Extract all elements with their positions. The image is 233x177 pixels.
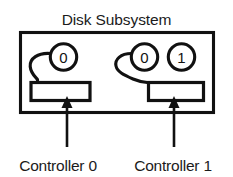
callout-label-controller-1: Controller 1 [134, 157, 212, 174]
controller-0-group: 0 [30, 44, 90, 101]
controller-1-board [149, 83, 204, 101]
controller-1-port-1-label: 1 [177, 49, 185, 66]
callout-arrow-controller-1 [169, 96, 180, 147]
controller-1-group: 0 1 [116, 44, 204, 101]
diagram-title: Disk Subsystem [62, 11, 172, 28]
disk-subsystem-diagram: Disk Subsystem 0 0 1 [0, 0, 233, 177]
controller-1-port-0-label: 0 [140, 49, 148, 66]
controller-0-cable [30, 53, 50, 83]
diagram-canvas: Disk Subsystem 0 0 1 [0, 0, 233, 177]
callout-label-controller-0: Controller 0 [19, 157, 97, 174]
controller-0-port-0-label: 0 [59, 49, 67, 66]
callout-arrow-controller-0 [62, 96, 73, 147]
controller-0-board [31, 83, 90, 101]
